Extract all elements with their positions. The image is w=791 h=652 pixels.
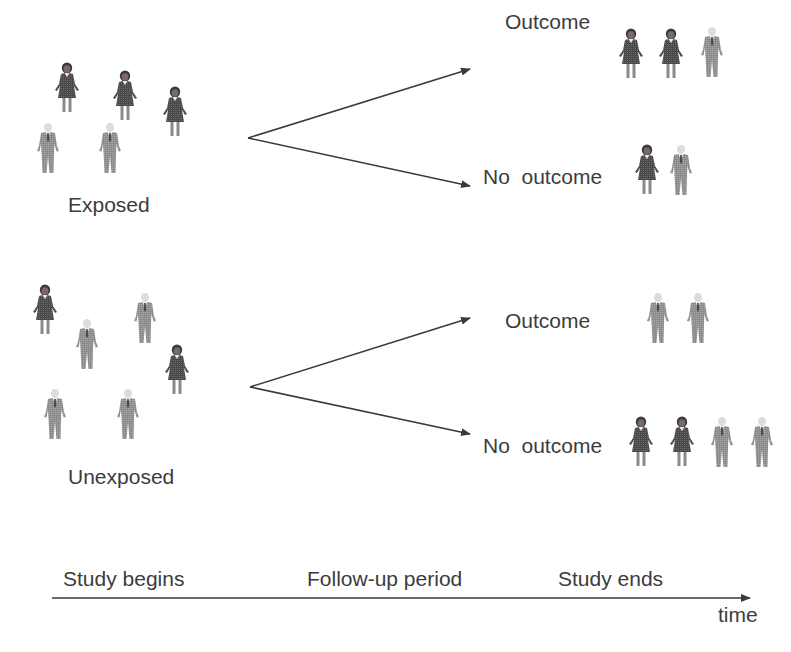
- time-axis-label: time: [718, 603, 758, 627]
- woman-figure-icon: [111, 70, 139, 122]
- man-figure-icon: [96, 122, 124, 174]
- man-figure-icon: [131, 292, 159, 344]
- woman-figure-icon: [31, 284, 59, 336]
- unexposed-to-outcome-arrow: [250, 318, 470, 387]
- man-figure-icon: [684, 292, 712, 344]
- exposed-to-no-outcome-arrow: [248, 138, 470, 186]
- man-figure-icon: [698, 26, 726, 78]
- follow-up-period-label: Follow-up period: [307, 567, 462, 591]
- man-figure-icon: [708, 416, 736, 468]
- exposed-to-outcome-arrow: [248, 69, 470, 138]
- man-figure-icon: [644, 292, 672, 344]
- woman-figure-icon: [657, 28, 685, 80]
- woman-figure-icon: [627, 416, 655, 468]
- study-begins-label: Study begins: [63, 567, 184, 591]
- unexposed-to-no-outcome-arrow: [250, 387, 470, 434]
- woman-figure-icon: [617, 28, 645, 80]
- exposed-no-outcome-label: No outcome: [483, 165, 602, 189]
- woman-figure-icon: [668, 416, 696, 468]
- man-figure-icon: [748, 416, 776, 468]
- man-figure-icon: [114, 388, 142, 440]
- man-figure-icon: [41, 388, 69, 440]
- woman-figure-icon: [53, 62, 81, 114]
- man-figure-icon: [667, 144, 695, 196]
- cohort-study-diagram: Exposed Outcome No outcome Unexposed Out…: [0, 0, 791, 652]
- man-figure-icon: [34, 122, 62, 174]
- woman-figure-icon: [633, 144, 661, 196]
- study-ends-label: Study ends: [558, 567, 663, 591]
- unexposed-outcome-label: Outcome: [505, 309, 590, 333]
- woman-figure-icon: [163, 344, 191, 396]
- unexposed-no-outcome-label: No outcome: [483, 434, 602, 458]
- unexposed-label: Unexposed: [68, 465, 174, 489]
- man-figure-icon: [73, 318, 101, 370]
- exposed-outcome-label: Outcome: [505, 10, 590, 34]
- exposed-label: Exposed: [68, 193, 150, 217]
- woman-figure-icon: [161, 86, 189, 138]
